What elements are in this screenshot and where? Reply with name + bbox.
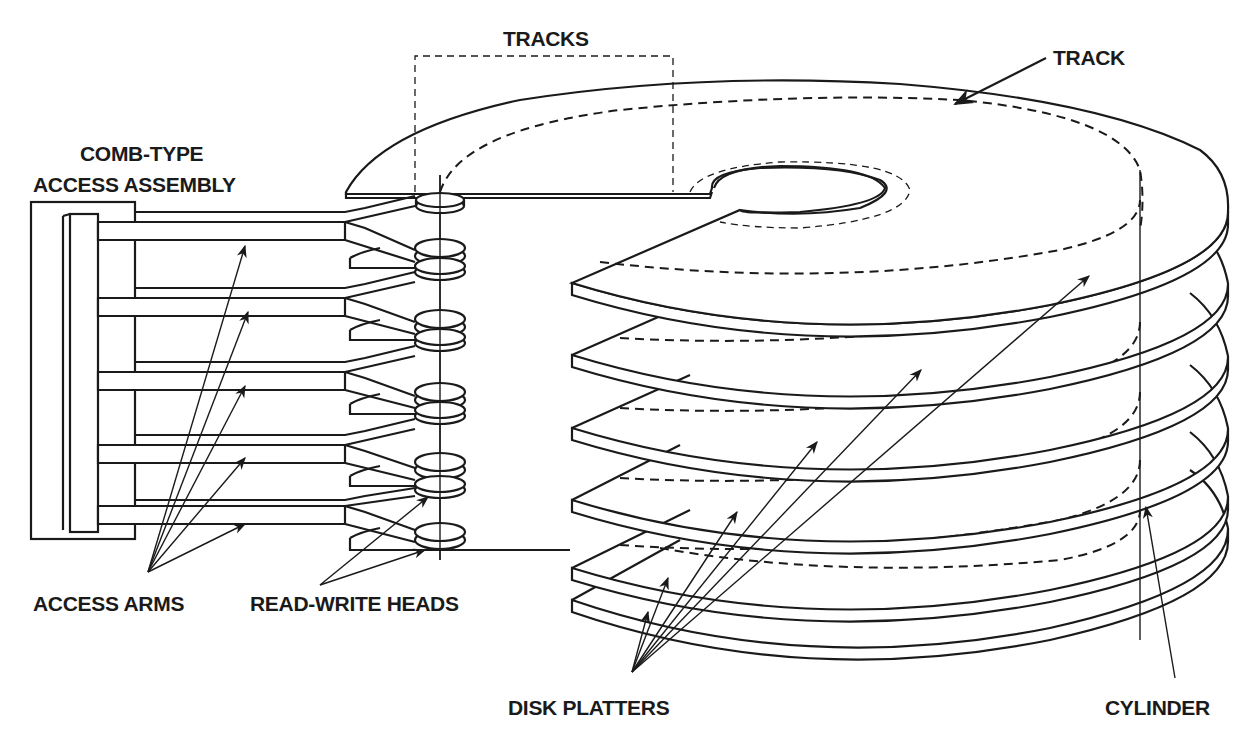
- disk-platters-stack: [346, 80, 1228, 659]
- access-arm-3: [98, 346, 420, 414]
- comb-access-assembly: [31, 202, 135, 539]
- disk-platters-label: DISK PLATTERS: [508, 695, 669, 721]
- access-arm-4: [98, 419, 420, 486]
- comb-assembly-label-line1: COMB-TYPE: [80, 141, 203, 167]
- disk-platter-1: [346, 80, 1228, 336]
- track-label: TRACK: [1053, 45, 1125, 71]
- access-arms-label: ACCESS ARMS: [33, 591, 184, 617]
- access-arms: [98, 196, 570, 550]
- disk-pack-diagram: [0, 0, 1256, 742]
- comb-assembly-label-line2: ACCESS ASSEMBLY: [33, 172, 236, 198]
- tracks-label: TRACKS: [503, 26, 589, 52]
- cylinder-label: CYLINDER: [1105, 695, 1210, 721]
- access-arm-1: [98, 196, 420, 268]
- access-arm-2: [98, 272, 420, 340]
- read-write-heads-label: READ-WRITE HEADS: [250, 591, 459, 617]
